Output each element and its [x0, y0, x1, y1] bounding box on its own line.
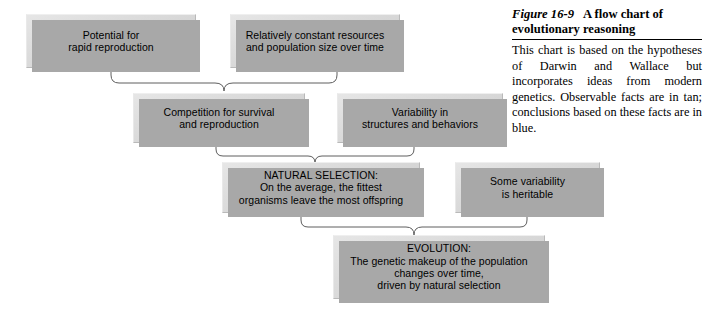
node-evolution: EVOLUTION: The genetic makeup of the pop… — [333, 235, 545, 299]
node-natural-selection: NATURAL SELECTION: On the average, the f… — [222, 162, 420, 213]
node-label: NATURAL SELECTION: On the average, the f… — [234, 169, 408, 206]
figure-flow-chart: Potential for rapid reproduction Relativ… — [0, 0, 707, 310]
node-variability-in-structures-and-behaviors: Variability in structures and behaviors — [337, 93, 503, 143]
node-label: Potential for rapid reproduction — [63, 29, 159, 54]
node-label: Relatively constant resources and popula… — [241, 29, 390, 54]
node-label: Variability in structures and behaviors — [357, 106, 483, 131]
node-label: Some variability is heritable — [485, 175, 570, 200]
node-label: EVOLUTION: The genetic makeup of the pop… — [345, 242, 533, 292]
caption-heading: Figure 16-9A flow chart of evolutionary … — [512, 7, 702, 37]
node-competition-for-survival: Competition for survival and reproductio… — [133, 93, 305, 143]
node-relatively-constant-resources: Relatively constant resources and popula… — [230, 14, 400, 68]
node-some-variability-is-heritable: Some variability is heritable — [455, 162, 600, 213]
node-label: Competition for survival and reproductio… — [159, 106, 280, 131]
figure-caption: Figure 16-9A flow chart of evolutionary … — [512, 7, 702, 136]
caption-body: This chart is based on the hypotheses of… — [512, 43, 702, 136]
caption-figure-number: Figure 16-9 — [512, 7, 574, 21]
node-potential-for-rapid-reproduction: Potential for rapid reproduction — [26, 14, 196, 68]
caption-divider — [512, 39, 702, 40]
